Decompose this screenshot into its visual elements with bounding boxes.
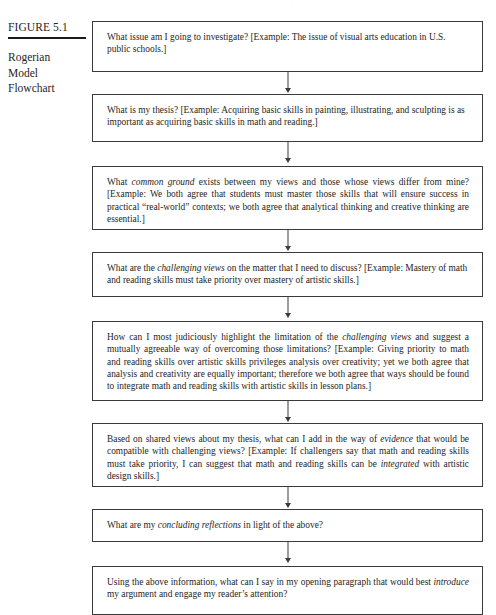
down-arrow-icon [92, 542, 483, 566]
box-text: What issue am I going to investigate? [E… [107, 31, 469, 56]
emphasis-text: challenging views [157, 263, 224, 273]
emphasis-text: common ground [132, 177, 195, 187]
arrow-head [285, 313, 291, 318]
down-arrow-icon [92, 401, 483, 423]
down-arrow-icon [92, 297, 483, 321]
figure-number: FIGURE 5.1 [8, 21, 88, 34]
issue-question: What issue am I going to investigate? [E… [92, 21, 483, 72]
emphasis-text: concluding reflections [158, 520, 241, 530]
emphasis-text: evidence [380, 434, 413, 444]
common-ground-question: What common ground exists between my vie… [92, 166, 483, 230]
box-text: What are my concluding reflections in li… [107, 519, 323, 531]
opening-paragraph-question: Using the above information, what can I … [92, 566, 483, 615]
emphasis-text: integrated [381, 459, 420, 469]
figure-title: Rogerian Model Flowchart [8, 50, 88, 97]
down-arrow-icon [92, 487, 483, 509]
flowchart: What issue am I going to investigate? [E… [92, 21, 483, 615]
emphasis-text: introduce [433, 577, 469, 587]
box-text: Using the above information, what can I … [107, 576, 469, 601]
thesis-question: What is my thesis? [Example: Acquiring b… [92, 94, 483, 142]
arrow-head [285, 417, 291, 422]
limitation-highlight-question: How can I most judiciously highlight the… [92, 321, 483, 401]
figure-title-line: Rogerian [8, 50, 88, 66]
box-text: What common ground exists between my vie… [107, 176, 469, 225]
figure-title-line: Model [8, 66, 88, 82]
box-text: How can I most judiciously highlight the… [107, 331, 469, 392]
arrow-head [285, 88, 291, 93]
box-text: Based on shared views about my thesis, w… [107, 433, 469, 482]
concluding-reflections-question: What are my concluding reflections in li… [92, 509, 483, 542]
down-arrow-icon [92, 72, 483, 94]
running-header-artifact: · · [285, 0, 465, 6]
evidence-question: Based on shared views about my thesis, w… [92, 423, 483, 487]
box-text: What are the challenging views on the ma… [107, 262, 469, 287]
figure-caption: FIGURE 5.1 Rogerian Model Flowchart [8, 21, 88, 97]
caption-divider [8, 37, 86, 39]
emphasis-text: challenging views [342, 332, 411, 342]
figure-title-line: Flowchart [8, 81, 88, 97]
down-arrow-icon [92, 142, 483, 166]
arrow-head [285, 503, 291, 508]
arrow-head [285, 558, 291, 563]
box-text: What is my thesis? [Example: Acquiring b… [107, 104, 469, 129]
arrow-head [285, 246, 291, 251]
arrow-head [285, 158, 291, 163]
challenging-views-question: What are the challenging views on the ma… [92, 252, 483, 297]
down-arrow-icon [92, 230, 483, 252]
